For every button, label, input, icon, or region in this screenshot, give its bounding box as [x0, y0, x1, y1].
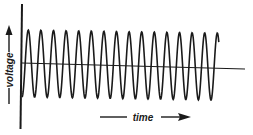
voltage-arrow-up-icon	[6, 25, 13, 35]
time-baseline	[22, 63, 245, 69]
voltage-label-text: voltage	[4, 52, 15, 87]
voltage-time-diagram: voltage time	[0, 0, 253, 135]
voltage-axis-label: voltage	[4, 52, 15, 87]
diagram-canvas: voltage time	[0, 0, 253, 135]
vertical-axis	[21, 4, 23, 129]
sine-waveform	[22, 30, 219, 100]
time-label-text: time	[133, 112, 154, 123]
